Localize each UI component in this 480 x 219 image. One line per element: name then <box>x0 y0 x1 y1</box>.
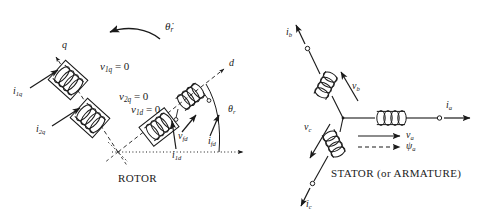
legend-arrows <box>358 136 400 147</box>
rotor-angle-label: θr <box>228 104 236 114</box>
q-axis-label: q <box>62 40 67 50</box>
d-axis-tail <box>104 152 118 163</box>
stator-phase-a <box>343 111 470 126</box>
diagram-vector-layer <box>0 0 480 219</box>
current-label-ia: ia <box>446 100 452 110</box>
legend-voltage-label: va <box>406 130 414 140</box>
rotor-speed-arrow <box>110 28 160 39</box>
voltage-label-vfd: vfd <box>178 131 188 141</box>
d-axis-label: d <box>229 58 234 68</box>
voltage-label-v1q: v1q = 0 <box>100 61 129 72</box>
current-label-i1q: i1q <box>13 86 22 96</box>
current-label-ib: ib <box>286 27 292 37</box>
current-label-ic: ic <box>306 199 312 209</box>
stator-caption: STATOR (or ARMATURE) <box>331 167 461 179</box>
voltage-label-v2q: v2q = 0 <box>119 91 148 102</box>
figure-canvas: θ̇r q d θr i1q v1q = 0 i2q v2q = 0 i1d v… <box>0 0 480 219</box>
winding-1q <box>30 60 88 99</box>
voltage-label-v1d: v1d = 0 <box>131 104 160 115</box>
current-label-ifd: ifd <box>208 136 216 146</box>
rotor-caption: ROTOR <box>118 172 157 184</box>
current-label-i1d: i1d <box>172 150 181 160</box>
neutral-node <box>342 117 345 120</box>
legend-flux-label: ψa <box>406 141 416 151</box>
stator-phase-b <box>296 25 358 118</box>
winding-2q <box>52 98 110 137</box>
voltage-label-vb: vb <box>352 81 360 91</box>
voltage-label-vc: vc <box>304 122 311 132</box>
rotor-speed-label: θ̇r <box>165 21 173 32</box>
current-label-i2q: i2q <box>36 124 45 134</box>
q-axis-tail <box>118 152 128 167</box>
